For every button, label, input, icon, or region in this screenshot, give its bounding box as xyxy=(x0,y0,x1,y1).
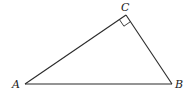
right-angle-marker xyxy=(119,20,130,27)
vertex-label-c: C xyxy=(121,1,130,14)
vertex-label-b: B xyxy=(174,78,183,91)
side-bc xyxy=(126,15,172,84)
side-ac xyxy=(25,15,126,84)
vertex-label-a: A xyxy=(11,78,20,91)
triangle-diagram: A B C xyxy=(0,0,187,105)
